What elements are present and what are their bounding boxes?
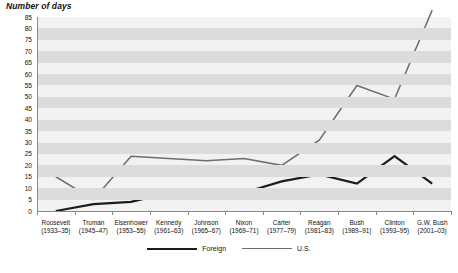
- x-label-name: Reagan: [300, 219, 338, 227]
- x-axis-label-johnson: Johnson(1965–67): [188, 219, 226, 235]
- y-axis-tick-label: 30: [2, 139, 32, 146]
- chart-container: Number of days 0510152025303540455055606…: [0, 0, 458, 273]
- x-label-name: Clinton: [376, 219, 414, 227]
- y-axis-tick-label: 10: [2, 185, 32, 192]
- x-axis-tick: [338, 211, 339, 215]
- x-label-term: (1989–91): [338, 227, 376, 235]
- chart-axis-title: Number of days: [6, 1, 72, 11]
- chart-legend: Foreign U.S.: [0, 245, 458, 252]
- x-label-name: Nixon: [225, 219, 263, 227]
- plot-area: [37, 17, 451, 211]
- x-axis-label-clinton: Clinton(1993–95): [376, 219, 414, 235]
- grid-band: [37, 51, 451, 62]
- y-axis-tick-label: 40: [2, 116, 32, 123]
- x-axis-label-nixon: Nixon(1969–71): [225, 219, 263, 235]
- x-axis-tick: [225, 211, 226, 215]
- x-axis-tick: [300, 211, 301, 215]
- x-label-term: (1993–95): [376, 227, 414, 235]
- grid-band: [37, 143, 451, 154]
- x-axis-tick: [37, 211, 38, 215]
- grid-band: [37, 165, 451, 176]
- x-axis-tick: [451, 211, 452, 215]
- y-axis-tick-label: 65: [2, 59, 32, 66]
- y-axis-tick-label: 85: [2, 14, 32, 21]
- legend-item-foreign[interactable]: Foreign: [147, 245, 226, 252]
- x-axis-tick: [413, 211, 414, 215]
- x-label-term: (1977–79): [263, 227, 301, 235]
- x-label-term: (1953–55): [112, 227, 150, 235]
- y-axis-tick-label: 75: [2, 36, 32, 43]
- x-label-term: (1965–67): [188, 227, 226, 235]
- y-axis-tick-label: 15: [2, 173, 32, 180]
- grid-band: [37, 74, 451, 85]
- y-axis-tick-label: 5: [2, 196, 32, 203]
- x-axis-tick: [188, 211, 189, 215]
- y-axis-tick-label: 55: [2, 82, 32, 89]
- x-label-name: Carter: [263, 219, 301, 227]
- x-axis-tick: [376, 211, 377, 215]
- x-label-term: (1933–35): [37, 227, 75, 235]
- x-axis-label-bush: Bush(1989–91): [338, 219, 376, 235]
- grid-band: [37, 188, 451, 199]
- x-axis-label-g-w-bush: G.W. Bush(2001–03): [413, 219, 451, 235]
- x-axis-label-kennedy: Kennedy(1961–63): [150, 219, 188, 235]
- y-axis-line: [37, 17, 38, 212]
- x-label-term: (1945–47): [75, 227, 113, 235]
- legend-label-us: U.S.: [297, 245, 311, 252]
- y-axis-tick-label: 45: [2, 105, 32, 112]
- x-label-name: Roosevelt: [37, 219, 75, 227]
- x-label-term: (1969–71): [225, 227, 263, 235]
- x-axis-label-roosevelt: Roosevelt(1933–35): [37, 219, 75, 235]
- x-label-name: Bush: [338, 219, 376, 227]
- x-axis-label-eisenhower: Eisenhower(1953–55): [112, 219, 150, 235]
- x-axis-tick: [75, 211, 76, 215]
- x-label-term: (1981–83): [300, 227, 338, 235]
- x-label-name: Johnson: [188, 219, 226, 227]
- series-lines: [37, 17, 451, 211]
- legend-label-foreign: Foreign: [202, 245, 226, 252]
- grid-band: [37, 28, 451, 39]
- x-axis-label-truman: Truman(1945–47): [75, 219, 113, 235]
- y-axis-tick-label: 70: [2, 48, 32, 55]
- x-label-name: Eisenhower: [112, 219, 150, 227]
- y-axis-tick-label: 0: [2, 208, 32, 215]
- x-axis-tick: [263, 211, 264, 215]
- x-axis-line: [37, 211, 451, 212]
- y-axis-tick-label: 20: [2, 162, 32, 169]
- y-axis-tick-label: 35: [2, 128, 32, 135]
- x-label-term: (1961–63): [150, 227, 188, 235]
- x-axis-label-reagan: Reagan(1981–83): [300, 219, 338, 235]
- y-axis-tick-label: 60: [2, 71, 32, 78]
- x-label-name: Truman: [75, 219, 113, 227]
- x-axis-tick: [112, 211, 113, 215]
- y-axis-tick-label: 80: [2, 25, 32, 32]
- x-axis-tick: [150, 211, 151, 215]
- x-label-name: Kennedy: [150, 219, 188, 227]
- x-label-name: G.W. Bush: [413, 219, 451, 227]
- grid-band: [37, 120, 451, 131]
- y-axis-tick-label: 50: [2, 93, 32, 100]
- legend-swatch-us: [242, 248, 292, 249]
- x-label-term: (2001–03): [413, 227, 451, 235]
- grid-band: [37, 97, 451, 108]
- y-axis-tick-label: 25: [2, 150, 32, 157]
- legend-item-us[interactable]: U.S.: [242, 245, 311, 252]
- x-axis-label-carter: Carter(1977–79): [263, 219, 301, 235]
- legend-swatch-foreign: [147, 248, 197, 250]
